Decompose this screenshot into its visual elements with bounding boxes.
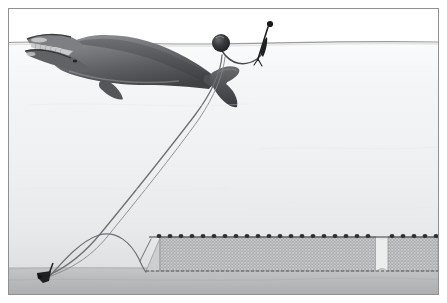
net-panel-secondary: [388, 237, 438, 271]
scene-svg: [9, 9, 438, 294]
gillnet: [146, 234, 438, 271]
illustration-title: Right whale entangled in bottom-set gill…: [0, 16, 1, 17]
whale-callosity-secondary: [27, 52, 36, 56]
scene: [9, 9, 438, 294]
screenshot-canvas: Illustration of a right whale entangled …: [0, 0, 447, 303]
whale-eye: [73, 60, 77, 63]
spherical-buoy: [212, 34, 230, 52]
whale-callosity-bonnet: [31, 37, 47, 42]
illustration-alt-text: Illustration of a right whale entangled …: [0, 16, 1, 17]
net-panel-main: [160, 237, 376, 271]
net-panel-gap: [376, 237, 388, 271]
illustration-frame: [8, 8, 439, 295]
high-flyer-top-ball: [267, 21, 273, 27]
